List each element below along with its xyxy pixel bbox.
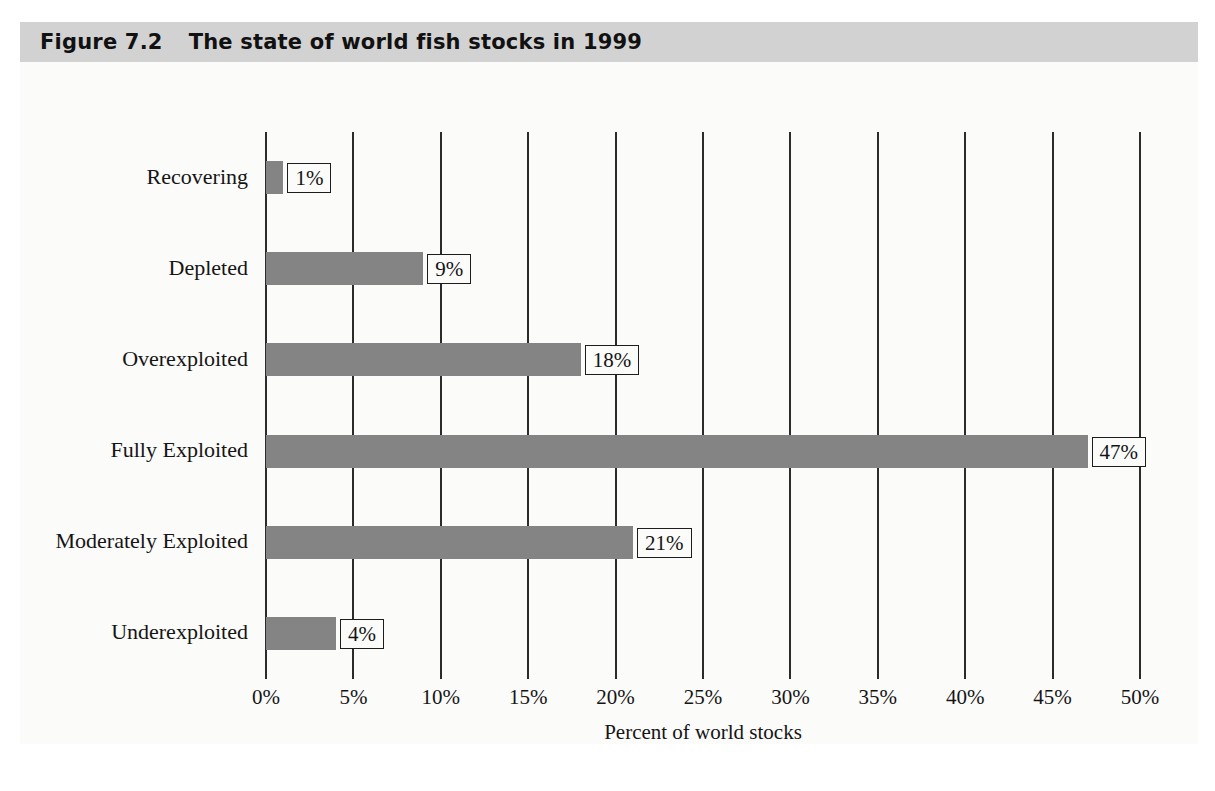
gridline-45pct [1052, 132, 1054, 679]
category-label-recovering: Recovering [147, 164, 248, 190]
bar-overexploited [266, 343, 581, 376]
category-label-fully-exploited: Fully Exploited [111, 437, 249, 463]
category-label-overexploited: Overexploited [122, 346, 248, 372]
bar-fully-exploited [266, 435, 1088, 468]
tick-label-20pct: 20% [596, 685, 635, 710]
gridline-0pct [265, 132, 267, 679]
bar-moderately-exploited [266, 526, 633, 559]
category-label-underexploited: Underexploited [111, 619, 248, 645]
figure-number: Figure 7.2 [40, 30, 163, 54]
tick-label-25pct: 25% [684, 685, 723, 710]
category-label-moderately-exploited: Moderately Exploited [56, 528, 248, 554]
gridline-10pct [440, 132, 442, 679]
chart-body: RecoveringDepletedOverexploitedFully Exp… [20, 62, 1198, 744]
gridline-30pct [789, 132, 791, 679]
plot-area: 1%9%18%47%21%4% [266, 132, 1140, 679]
figure-panel: Figure 7.2 The state of world fish stock… [20, 22, 1198, 744]
x-axis-title: Percent of world stocks [266, 720, 1140, 745]
tick-label-5pct: 5% [339, 685, 367, 710]
data-label-underexploited: 4% [340, 619, 384, 649]
figure-title-banner: Figure 7.2 The state of world fish stock… [20, 22, 1198, 62]
gridline-40pct [964, 132, 966, 679]
gridline-50pct [1139, 132, 1141, 679]
gridline-25pct [702, 132, 704, 679]
bar-depleted [266, 252, 423, 285]
tick-label-40pct: 40% [946, 685, 985, 710]
data-label-recovering: 1% [287, 163, 331, 193]
data-label-fully-exploited: 47% [1092, 437, 1147, 467]
data-label-depleted: 9% [427, 254, 471, 284]
bar-underexploited [266, 617, 336, 650]
x-axis-tick-labels: 0%5%10%15%20%25%30%35%40%45%50% [266, 685, 1140, 715]
tick-label-45pct: 45% [1033, 685, 1072, 710]
data-label-overexploited: 18% [585, 345, 640, 375]
figure-title: The state of world fish stocks in 1999 [189, 30, 643, 54]
category-label-depleted: Depleted [169, 255, 248, 281]
bar-recovering [266, 161, 283, 194]
tick-label-50pct: 50% [1121, 685, 1160, 710]
tick-label-0pct: 0% [252, 685, 280, 710]
data-label-moderately-exploited: 21% [637, 528, 692, 558]
gridline-35pct [877, 132, 879, 679]
tick-label-30pct: 30% [771, 685, 810, 710]
category-axis: RecoveringDepletedOverexploitedFully Exp… [20, 132, 248, 679]
gridline-5pct [352, 132, 354, 679]
gridline-20pct [615, 132, 617, 679]
gridline-15pct [527, 132, 529, 679]
tick-label-15pct: 15% [509, 685, 548, 710]
tick-label-10pct: 10% [422, 685, 461, 710]
tick-label-35pct: 35% [859, 685, 898, 710]
